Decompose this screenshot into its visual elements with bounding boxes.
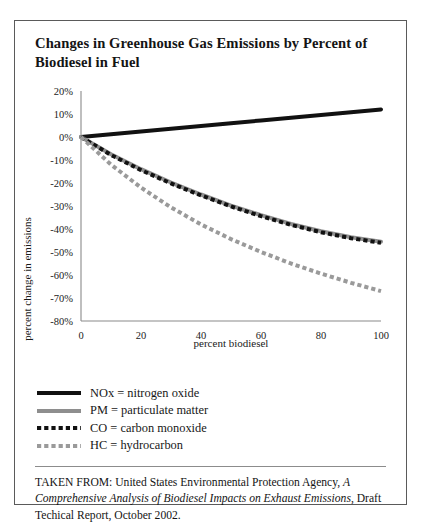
- y-tick-10: -80%: [50, 315, 73, 326]
- y-tick-3: -10%: [50, 154, 73, 165]
- legend-swatch-hc: [37, 440, 81, 452]
- y-tick-4: -20%: [50, 177, 73, 188]
- legend-item: NOx = nitrogen oxide: [37, 385, 367, 403]
- y-tick-8: -60%: [50, 269, 73, 280]
- x-tick-4: 80: [316, 330, 327, 341]
- legend-label-co: CO = carbon monoxide: [90, 421, 207, 436]
- legend-label-hc: HC = hydrocarbon: [90, 438, 183, 453]
- emissions-line-chart: 20%10%0%-10%-20%-30%-40%-50%-60%-70%-80%…: [15, 79, 408, 379]
- y-axis-label: percent change in emissions: [21, 217, 33, 341]
- y-tick-5: -30%: [50, 200, 73, 211]
- legend-item: PM = particulate matter: [37, 402, 367, 420]
- chart-plot-area: 20%10%0%-10%-20%-30%-40%-50%-60%-70%-80%…: [15, 79, 408, 379]
- x-tick-1: 20: [136, 330, 147, 341]
- x-tick-0: 0: [78, 330, 83, 341]
- legend-swatch-co: [37, 422, 81, 434]
- legend-swatch-pm: [37, 405, 81, 417]
- legend-label-pm: PM = particulate matter: [90, 403, 208, 418]
- source-divider: [35, 466, 386, 467]
- series-line-co: [81, 137, 381, 243]
- y-tick-6: -40%: [50, 223, 73, 234]
- y-tick-9: -70%: [50, 292, 73, 303]
- x-tick-5: 100: [373, 330, 389, 341]
- y-tick-7: -50%: [50, 246, 73, 257]
- legend-item: CO = carbon monoxide: [37, 420, 367, 438]
- source-prefix: TAKEN FROM: United States Environmental …: [35, 476, 343, 489]
- legend-label-nox: NOx = nitrogen oxide: [90, 386, 199, 401]
- x-axis-label: percent biodiesel: [194, 337, 269, 349]
- y-tick-1: 10%: [54, 108, 74, 119]
- y-axis-tick-labels: 20%10%0%-10%-20%-30%-40%-50%-60%-70%-80%: [50, 85, 73, 326]
- y-tick-2: 0%: [59, 131, 73, 142]
- figure-frame: Changes in Greenhouse Gas Emissions by P…: [14, 20, 407, 505]
- legend-item: HC = hydrocarbon: [37, 437, 367, 455]
- series-line-pm: [81, 137, 381, 242]
- figure-title: Changes in Greenhouse Gas Emissions by P…: [35, 34, 380, 73]
- legend-swatch-nox: [37, 387, 81, 399]
- y-tick-0: 20%: [54, 85, 74, 96]
- chart-legend: NOx = nitrogen oxide PM = particulate ma…: [37, 385, 367, 455]
- source-attribution: TAKEN FROM: United States Environmental …: [35, 475, 384, 525]
- chart-series-group: [81, 109, 381, 291]
- series-line-nox: [81, 109, 381, 137]
